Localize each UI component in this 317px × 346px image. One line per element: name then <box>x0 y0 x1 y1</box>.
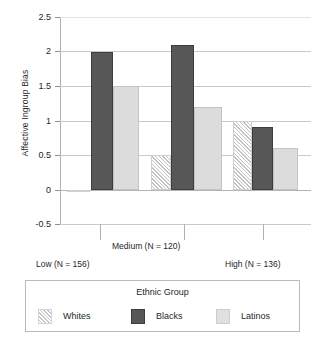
legend-swatch-blacks-icon <box>131 309 145 324</box>
bar-high-whites <box>233 121 252 190</box>
legend-entry-whites: Whites <box>38 307 91 325</box>
legend-swatch-whites-icon <box>38 309 52 324</box>
legend-label-latinos: Latinos <box>241 311 270 321</box>
x-label-low: Low (N = 156) <box>36 259 90 269</box>
x-tick-mark-1 <box>100 224 101 240</box>
affective-ingroup-bias-bar-chart: Affective Ingroup Bias 2.5 2 1.5 1 0.5 0… <box>0 0 317 346</box>
y-tick-label-2.5: 2.5 <box>5 13 51 22</box>
y-tick-label-1.5: 1.5 <box>5 82 51 91</box>
bar-low-latinos <box>113 86 139 190</box>
y-tick-label-1: 1 <box>5 117 51 126</box>
x-label-high: High (N = 136) <box>225 259 281 269</box>
legend-entry-latinos: Latinos <box>216 307 270 325</box>
x-tick-mark-3 <box>263 224 264 240</box>
y-tick-label-0: 0 <box>5 186 51 195</box>
y-tick-label-0.5: 0.5 <box>5 151 51 160</box>
gridline-0 <box>60 190 311 191</box>
legend: Ethnic Group Whites Blacks Latinos <box>25 280 300 332</box>
gridline-2.5 <box>60 17 311 18</box>
y-tick-label--0.5: -0.5 <box>5 220 51 229</box>
bar-low-blacks <box>91 52 113 190</box>
legend-title: Ethnic Group <box>26 287 299 297</box>
bar-medium-whites <box>151 155 171 190</box>
x-tick-mark-2 <box>184 224 185 240</box>
bar-medium-latinos <box>194 107 222 190</box>
y-tick-label-2: 2 <box>5 47 51 56</box>
legend-label-whites: Whites <box>63 311 91 321</box>
bar-low-whites <box>67 190 90 192</box>
bar-high-latinos <box>273 148 298 190</box>
x-label-medium: Medium (N = 120) <box>112 241 180 251</box>
gridline--0.5 <box>60 224 311 225</box>
bar-medium-blacks <box>171 45 194 190</box>
legend-swatch-latinos-icon <box>216 309 230 324</box>
plot-area <box>60 17 311 224</box>
legend-entry-blacks: Blacks <box>131 307 183 325</box>
bar-high-blacks <box>252 127 273 190</box>
legend-label-blacks: Blacks <box>156 311 183 321</box>
